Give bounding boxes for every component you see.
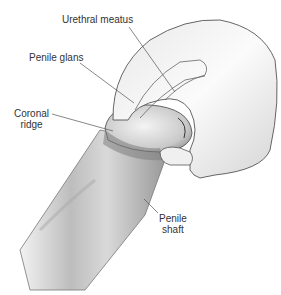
- label-penile-glans: Penile glans: [29, 52, 83, 63]
- illustration: [0, 0, 281, 295]
- label-coronal-ridge-line1: Coronal: [14, 108, 49, 119]
- label-penile-shaft: Penile shaft: [159, 213, 187, 235]
- label-penile-shaft-line2: shaft: [159, 224, 187, 235]
- label-urethral-meatus: Urethral meatus: [62, 14, 133, 25]
- leader-coronal-ridge: [52, 114, 113, 131]
- diagram-canvas: Urethral meatus Penile glans Coronal rid…: [0, 0, 281, 295]
- label-coronal-ridge: Coronal ridge: [14, 108, 49, 130]
- label-penile-shaft-line1: Penile: [159, 213, 187, 224]
- label-coronal-ridge-line2: ridge: [14, 119, 49, 130]
